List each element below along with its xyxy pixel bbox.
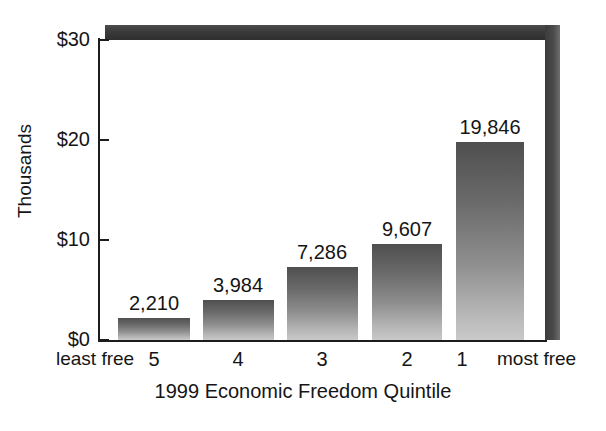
x-axis-most-free-label: most free [497,348,576,370]
bar-value-quintile-3: 7,286 [272,241,372,264]
bar-quintile-3 [287,267,358,340]
x-tick-label-1: 1 [432,348,492,371]
bar-quintile-2 [372,244,442,340]
y-axis-title: Thousands [14,101,36,241]
y-tick-20 [98,139,109,141]
y-tick-0 [98,339,109,341]
y-tick-label-30: $30 [2,28,90,51]
y-axis-line [98,38,100,342]
bar-value-quintile-2: 9,607 [357,218,457,241]
y-tick-30 [98,39,109,41]
bar-value-quintile-4: 3,984 [188,274,288,297]
x-axis-title: 1999 Economic Freedom Quintile [0,380,606,403]
bar-quintile-5 [118,318,190,340]
bar-quintile-4 [203,300,274,340]
plot-frame-right-band [545,25,560,340]
bar-chart-figure: $30 $20 $10 $0 Thousands 2,210 3,984 7,2… [0,0,606,431]
plot-frame-top-band [105,25,560,40]
bar-value-quintile-1: 19,846 [440,116,540,139]
y-tick-10 [98,239,109,241]
x-axis-line [98,340,547,342]
bar-quintile-1 [456,142,524,340]
